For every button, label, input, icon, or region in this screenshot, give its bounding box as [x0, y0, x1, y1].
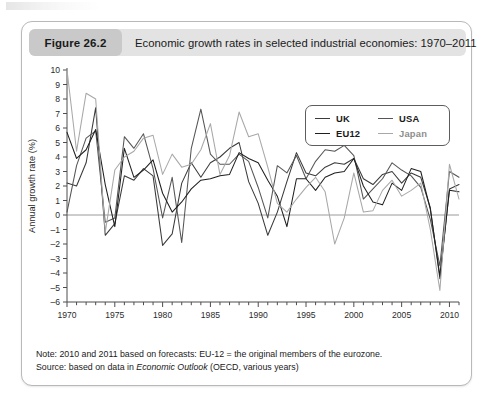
- series-lines: [67, 70, 459, 290]
- legend-row-1: UK USA: [315, 111, 449, 126]
- svg-text:8: 8: [55, 94, 60, 104]
- svg-text:6: 6: [55, 123, 60, 133]
- figure-note: Note: 2010 and 2011 based on forecasts: …: [36, 348, 461, 361]
- series-line-japan: [67, 70, 459, 290]
- svg-text:1990: 1990: [249, 310, 268, 320]
- legend-item-uk[interactable]: UK: [315, 113, 378, 124]
- legend-label-eu12: EU12: [336, 128, 360, 139]
- axis-lines: [67, 68, 459, 302]
- figure-number-badge: Figure 26.2: [29, 29, 122, 56]
- svg-text:1: 1: [55, 196, 60, 206]
- figure-header: Figure 26.2 Economic growth rates in sel…: [29, 29, 466, 56]
- legend-item-eu12[interactable]: EU12: [315, 128, 378, 139]
- legend-label-japan: Japan: [399, 128, 427, 139]
- svg-text:–3: –3: [50, 254, 60, 264]
- figure-source: Source: based on data in Economic Outloo…: [36, 361, 461, 374]
- x-axis-ticks: 197019751980198519901995200020052010: [57, 302, 459, 320]
- svg-text:–1: –1: [50, 225, 60, 235]
- legend-item-japan[interactable]: Japan: [378, 128, 427, 139]
- svg-text:1975: 1975: [105, 310, 124, 320]
- svg-text:Annual growth rate (%): Annual growth rate (%): [27, 139, 37, 233]
- legend-label-usa: USA: [399, 113, 419, 124]
- svg-text:5: 5: [55, 138, 60, 148]
- svg-text:–5: –5: [50, 283, 60, 293]
- svg-text:–2: –2: [50, 239, 60, 249]
- source-publication: Economic Outlook: [136, 362, 207, 372]
- y-axis-title: Annual growth rate (%): [27, 139, 37, 233]
- svg-text:1980: 1980: [153, 310, 172, 320]
- y-axis-ticks: 109876543210–1–2–3–4–5–6: [50, 65, 67, 307]
- chart-legend: UK USA EU12 Japan: [305, 105, 450, 146]
- svg-text:2010: 2010: [440, 310, 459, 320]
- svg-text:–6: –6: [50, 297, 60, 307]
- chart-plot-area: 109876543210–1–2–3–4–5–6 197019751980198…: [22, 58, 473, 343]
- legend-swatch-eu12: [315, 133, 330, 134]
- legend-swatch-japan: [378, 133, 393, 134]
- figure-card: Figure 26.2 Economic growth rates in sel…: [21, 21, 472, 386]
- source-suffix: (OECD, various years): [208, 362, 299, 372]
- svg-text:2: 2: [55, 181, 60, 191]
- svg-text:1995: 1995: [296, 310, 315, 320]
- legend-item-usa[interactable]: USA: [378, 113, 419, 124]
- legend-label-uk: UK: [336, 113, 350, 124]
- svg-text:–4: –4: [50, 268, 60, 278]
- source-prefix: Source: based on data in: [36, 362, 136, 372]
- scan-artifact: [6, 2, 102, 10]
- figure-number-label: Figure 26.2: [45, 37, 107, 49]
- svg-text:10: 10: [50, 65, 60, 75]
- figure-title: Economic growth rates in selected indust…: [122, 37, 476, 49]
- legend-swatch-uk: [315, 118, 330, 119]
- svg-text:1970: 1970: [57, 310, 76, 320]
- svg-text:1985: 1985: [201, 310, 220, 320]
- growth-rate-line-chart: 109876543210–1–2–3–4–5–6 197019751980198…: [22, 58, 473, 343]
- svg-text:0: 0: [55, 210, 60, 220]
- svg-text:2005: 2005: [392, 310, 411, 320]
- legend-row-2: EU12 Japan: [315, 126, 449, 141]
- svg-text:7: 7: [55, 109, 60, 119]
- legend-swatch-usa: [378, 118, 393, 119]
- svg-text:2000: 2000: [344, 310, 363, 320]
- figure-footer: Note: 2010 and 2011 based on forecasts: …: [36, 348, 461, 374]
- svg-text:3: 3: [55, 167, 60, 177]
- svg-text:4: 4: [55, 152, 60, 162]
- svg-text:9: 9: [55, 80, 60, 90]
